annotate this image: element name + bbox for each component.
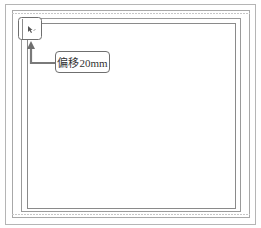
- callout-arrow: [27, 41, 55, 63]
- drawing-canvas: [0, 0, 261, 228]
- third-frame: [22, 19, 241, 212]
- offset-callout-text: 偏移20mm: [57, 54, 107, 70]
- outer-frame: [6, 5, 256, 225]
- offset-callout-label: 偏移20mm: [55, 51, 110, 73]
- second-frame: [13, 11, 250, 218]
